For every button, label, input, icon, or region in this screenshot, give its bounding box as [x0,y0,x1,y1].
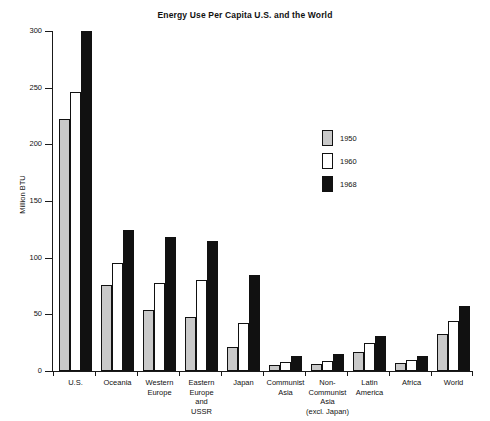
bar-1968 [291,356,302,371]
legend-swatch-1950 [322,130,333,146]
x-tick [53,371,54,376]
bar-1950 [437,334,448,371]
y-tick-label-200: 200 [2,140,42,148]
x-label-line: Asia [301,397,355,407]
y-tick-label-250: 250 [2,84,42,92]
y-tick-200 [45,144,52,145]
x-tick [137,371,138,376]
x-tick [95,371,96,376]
bar-1950 [269,365,280,371]
chart-canvas: Energy Use Per Capita U.S. and the World… [0,0,490,421]
bar-1960 [322,361,333,371]
legend-swatch-1960 [322,153,333,169]
x-label-line: World [427,378,481,388]
bar-group [353,31,386,371]
bar-1968 [417,356,428,371]
bar-1960 [154,283,165,371]
y-axis-tick-labels: 300250200150100500 [0,0,42,421]
x-tick [179,371,180,376]
x-label-line: America [343,388,397,398]
x-tick [305,371,306,376]
bar-1950 [353,352,364,371]
bar-1950 [227,347,238,371]
bar-1950 [185,317,196,371]
y-axis-line [52,31,53,371]
bar-1968 [249,275,260,371]
bar-group [395,31,428,371]
chart-title: Energy Use Per Capita U.S. and the World [0,10,490,20]
legend-label-1950: 1950 [340,134,357,143]
bar-1950 [311,364,322,371]
x-label-9: World [427,378,481,388]
legend-label-1960: 1960 [340,157,357,166]
bar-1950 [395,363,406,371]
bar-1960 [70,92,81,371]
bar-1950 [59,119,70,371]
y-tick-0 [45,371,52,372]
y-tick-100 [45,258,52,259]
bar-group [101,31,134,371]
x-tick [431,371,432,376]
bar-group [185,31,218,371]
bar-group [59,31,92,371]
bar-1968 [165,237,176,371]
bar-1960 [406,360,417,371]
y-tick-label-300: 300 [2,27,42,35]
x-tick [221,371,222,376]
x-label-line: (excl. Japan) [301,407,355,417]
x-label-line: and [175,397,229,407]
x-axis-line [52,371,472,372]
legend-label-1968: 1968 [340,180,357,189]
bar-1968 [207,241,218,371]
bar-1960 [196,280,207,371]
y-tick-150 [45,201,52,202]
x-tick [347,371,348,376]
bar-group [437,31,470,371]
x-label-line: Europe [175,388,229,398]
bar-1968 [459,306,470,371]
bar-1968 [333,354,344,371]
y-tick-label-100: 100 [2,254,42,262]
bar-group [143,31,176,371]
bar-1960 [280,362,291,371]
bar-1960 [448,321,459,371]
y-tick-label-50: 50 [2,310,42,318]
x-label-line: USSR [175,407,229,417]
x-tick [263,371,264,376]
bar-group [227,31,260,371]
bar-1950 [101,285,112,371]
y-tick-300 [45,31,52,32]
bar-1968 [375,336,386,371]
bar-1960 [238,323,249,371]
bar-group [269,31,302,371]
x-tick [389,371,390,376]
x-tick-end [472,371,473,376]
bar-1968 [123,230,134,371]
y-tick-250 [45,88,52,89]
legend-swatch-1968 [322,176,333,192]
bar-group [311,31,344,371]
y-tick-50 [45,314,52,315]
y-tick-label-0: 0 [2,367,42,375]
bar-1950 [143,310,154,371]
y-tick-label-150: 150 [2,197,42,205]
bar-1968 [81,31,92,371]
bar-1960 [364,343,375,371]
bar-1960 [112,263,123,371]
